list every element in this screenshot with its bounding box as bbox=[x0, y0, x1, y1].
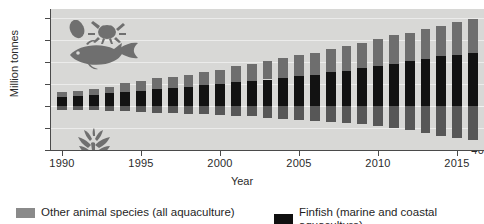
bar-group bbox=[168, 9, 178, 150]
bar-segment bbox=[389, 106, 399, 128]
bar-segment bbox=[231, 82, 241, 106]
bar-group bbox=[421, 9, 431, 150]
x-axis-tick bbox=[141, 151, 142, 156]
bar-segment bbox=[373, 106, 383, 126]
bar-segment bbox=[73, 91, 83, 96]
bar-segment bbox=[199, 106, 209, 114]
bar-group bbox=[120, 9, 130, 150]
legend-swatch-other-animal-species bbox=[16, 208, 35, 218]
bar-group bbox=[326, 9, 336, 150]
bar-segment bbox=[215, 106, 225, 115]
bar-segment bbox=[421, 29, 431, 59]
bar-segment bbox=[168, 77, 178, 88]
bar-group bbox=[105, 9, 115, 150]
bar-segment bbox=[405, 33, 415, 62]
bar-group bbox=[231, 9, 241, 150]
legend-swatch-finfish bbox=[274, 214, 293, 224]
bar-segment bbox=[405, 106, 415, 130]
bar-group bbox=[152, 9, 162, 150]
bar-segment bbox=[184, 75, 194, 87]
bar-segment bbox=[184, 87, 194, 106]
bar-segment bbox=[373, 39, 383, 66]
bar-segment bbox=[468, 53, 478, 106]
bar-segment bbox=[294, 76, 304, 106]
bar-segment bbox=[215, 84, 225, 106]
x-axis-tick bbox=[378, 151, 379, 156]
bar-segment bbox=[263, 61, 273, 79]
aquaculture-production-chart: Million tonnes 8060402002040 bbox=[0, 0, 484, 224]
legend-label-other-animal-species: Other animal species (all aquaculture) bbox=[41, 206, 235, 219]
bar-group bbox=[278, 9, 288, 150]
bar-group bbox=[468, 9, 478, 150]
bar-segment bbox=[326, 49, 336, 73]
bar-segment bbox=[263, 80, 273, 106]
bar-segment bbox=[278, 106, 288, 119]
bar-segment bbox=[168, 106, 178, 113]
y-axis-title: Million tonnes bbox=[9, 14, 20, 114]
bar-group bbox=[436, 9, 446, 150]
bar-segment bbox=[326, 106, 336, 122]
bar-segment bbox=[89, 106, 99, 110]
bar-group bbox=[199, 9, 209, 150]
x-axis-tick bbox=[299, 151, 300, 156]
x-axis-tick bbox=[220, 151, 221, 156]
bar-segment bbox=[389, 35, 399, 63]
bar-segment bbox=[421, 106, 431, 134]
bar-segment bbox=[73, 96, 83, 106]
bar-segment bbox=[136, 91, 146, 106]
bar-segment bbox=[231, 66, 241, 82]
bar-segment bbox=[278, 58, 288, 78]
bar-segment bbox=[357, 68, 367, 105]
bar-group bbox=[136, 9, 146, 150]
x-axis-tick-label: 2015 bbox=[437, 158, 477, 169]
bar-group bbox=[373, 9, 383, 150]
bar-segment bbox=[120, 92, 130, 106]
bar-segment bbox=[120, 83, 130, 91]
x-axis-line bbox=[50, 150, 484, 151]
bar-segment bbox=[89, 95, 99, 106]
bar-segment bbox=[310, 106, 320, 121]
bar-segment bbox=[468, 106, 478, 140]
y-axis-line bbox=[50, 9, 51, 151]
bar-segment bbox=[342, 71, 352, 106]
bar-group bbox=[294, 9, 304, 150]
bar-segment bbox=[73, 106, 83, 110]
bar-segment bbox=[199, 72, 209, 85]
bar-segment bbox=[263, 106, 273, 118]
bar-segment bbox=[452, 22, 462, 54]
bar-segment bbox=[89, 89, 99, 95]
chart-legend: Other animal species (all aquaculture) F… bbox=[0, 206, 484, 224]
bar-segment bbox=[357, 43, 367, 69]
bar-group bbox=[342, 9, 352, 150]
x-axis-tick-label: 1995 bbox=[121, 158, 161, 169]
bar-segment bbox=[436, 26, 446, 57]
bar-segment bbox=[57, 97, 67, 106]
x-axis-tick bbox=[457, 151, 458, 156]
bar-segment bbox=[436, 106, 446, 136]
bar-group bbox=[310, 9, 320, 150]
bar-segment bbox=[310, 53, 320, 75]
bar-segment bbox=[310, 75, 320, 106]
legend-item-finfish: Finfish (marine and coastal aquaculture) bbox=[274, 206, 484, 224]
bar-segment bbox=[342, 106, 352, 123]
bar-group bbox=[247, 9, 257, 150]
bar-segment bbox=[57, 92, 67, 97]
bar-segment bbox=[421, 59, 431, 106]
x-axis-tick bbox=[62, 151, 63, 156]
bar-segment bbox=[373, 66, 383, 106]
plot-area bbox=[51, 9, 484, 150]
bar-segment bbox=[105, 106, 115, 111]
bar-segment bbox=[152, 106, 162, 113]
x-axis-tick-label: 1990 bbox=[42, 158, 82, 169]
bar-segment bbox=[436, 56, 446, 106]
bar-segment bbox=[215, 70, 225, 84]
bar-group bbox=[263, 9, 273, 150]
legend-label-finfish: Finfish (marine and coastal aquaculture) bbox=[299, 206, 484, 224]
bar-segment bbox=[120, 106, 130, 112]
bar-segment bbox=[389, 64, 399, 106]
bar-group bbox=[215, 9, 225, 150]
x-axis-tick-label: 2000 bbox=[200, 158, 240, 169]
bar-segment bbox=[247, 64, 257, 81]
bar-segment bbox=[152, 78, 162, 88]
bar-segment bbox=[152, 89, 162, 106]
